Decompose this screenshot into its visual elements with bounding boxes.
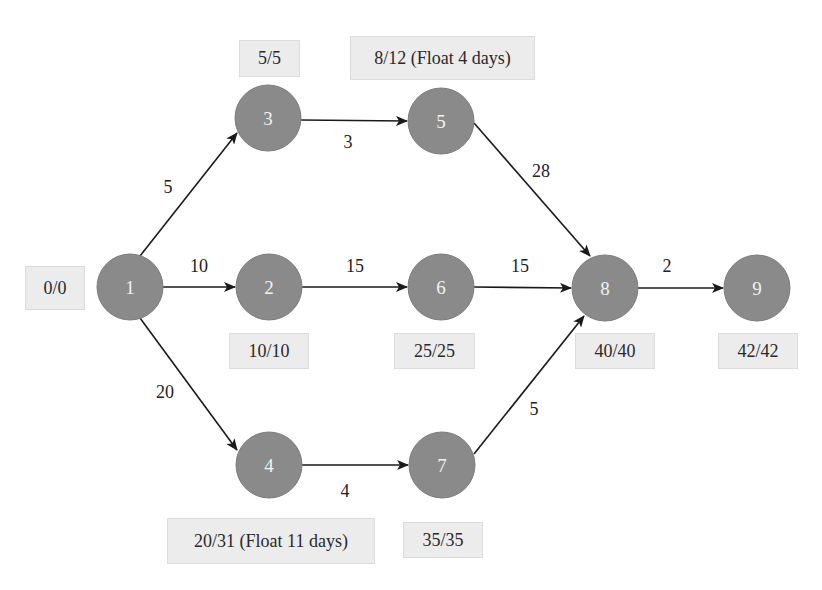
edge-7-8 (474, 316, 584, 454)
time-box-node-1: 0/0 (25, 266, 85, 310)
edge-label-5-8: 28 (532, 161, 550, 181)
node-9: 9 (724, 255, 790, 321)
edge-label-1-3: 5 (164, 177, 173, 197)
edge-label-7-8: 5 (530, 399, 539, 419)
edge-5-8 (474, 123, 590, 256)
time-box-node-6: 25/25 (394, 333, 475, 369)
edge-3-5 (301, 120, 407, 121)
node-7: 7 (409, 432, 475, 498)
edge-label-4-7: 4 (341, 481, 350, 501)
time-box-node-8: 40/40 (575, 333, 655, 369)
edge-label-6-8: 15 (511, 256, 529, 276)
node-2: 2 (236, 254, 302, 320)
nodes: 1 2 3 4 5 6 7 8 (97, 85, 790, 498)
node-7-label: 7 (437, 455, 447, 476)
edge-label-3-5: 3 (344, 132, 353, 152)
edge-label-8-9: 2 (663, 256, 672, 276)
edge-1-3 (140, 133, 237, 256)
node-1-label: 1 (125, 277, 135, 298)
node-3: 3 (235, 85, 301, 151)
edge-6-8 (474, 287, 571, 288)
node-9-label: 9 (752, 278, 762, 299)
edge-label-1-2: 10 (190, 256, 208, 276)
node-8-label: 8 (600, 278, 610, 299)
node-5-label: 5 (436, 111, 446, 132)
node-1: 1 (97, 254, 163, 320)
node-6: 6 (408, 254, 474, 320)
node-3-label: 3 (263, 108, 273, 129)
network-diagram: 5 10 20 3 15 4 28 15 5 2 1 2 3 4 5 (0, 0, 822, 590)
node-4: 4 (236, 432, 302, 498)
time-box-node-2: 10/10 (229, 333, 309, 369)
time-box-node-9: 42/42 (718, 333, 798, 369)
time-box-node-3: 5/5 (239, 40, 300, 77)
node-2-label: 2 (264, 277, 274, 298)
edge-label-2-6: 15 (346, 256, 364, 276)
time-box-node-4: 20/31 (Float 11 days) (167, 518, 375, 564)
time-box-node-7: 35/35 (403, 522, 483, 558)
edge-1-4 (140, 318, 237, 450)
node-5: 5 (408, 88, 474, 154)
node-6-label: 6 (436, 277, 446, 298)
node-4-label: 4 (264, 455, 274, 476)
time-box-node-5: 8/12 (Float 4 days) (350, 36, 535, 80)
node-8: 8 (572, 255, 638, 321)
edge-label-1-4: 20 (156, 382, 174, 402)
